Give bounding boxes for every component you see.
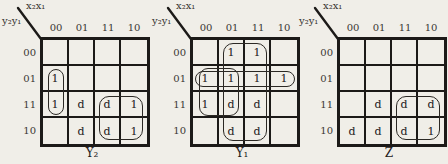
col-label: 00: [43, 22, 69, 33]
kmap-cell: d: [219, 118, 245, 144]
kmap-cell: 1: [271, 66, 297, 92]
row-label: 01: [160, 66, 186, 92]
col-label: 01: [366, 22, 392, 33]
kmap-cell: [340, 92, 366, 118]
kmap-cell: [392, 66, 418, 92]
kmap-y2: x₂x₁ y₂y₁ 00 01 11 10 00 01 11 10 1 1 d …: [0, 0, 150, 164]
kmap-y1: x₂x₁ y₂y₁ 00 01 11 10 00 01 11 10 1 1 1 …: [150, 0, 300, 164]
kmap-figure: x₂x₁ y₂y₁ 00 01 11 10 00 01 11 10 1 1 d …: [0, 0, 448, 164]
kmap-caption: Z: [334, 146, 444, 160]
kmap-cell: 1: [193, 66, 219, 92]
kmap-cell: [392, 40, 418, 66]
kmap-cell: d: [392, 92, 418, 118]
kmap-caption: Y₁: [187, 146, 297, 160]
kmap-cell: 1: [219, 40, 245, 66]
kmap-cell: [69, 40, 95, 66]
kmap-cell: d: [366, 118, 392, 144]
row-label: 01: [10, 66, 36, 92]
row-label: 00: [307, 40, 333, 66]
col-label: 11: [392, 22, 418, 33]
kmap-grid: 1 1 d d 1 d d 1: [40, 37, 150, 147]
row-label: 00: [160, 40, 186, 66]
row-label: 10: [160, 118, 186, 144]
kmap-cell: [366, 40, 392, 66]
kmap-grid: d d d d d d 1: [337, 37, 447, 147]
col-label: 11: [95, 22, 121, 33]
corner-top-label: x₂x₁: [323, 0, 342, 11]
kmap-cell: [271, 118, 297, 144]
kmap-cell: d: [245, 118, 271, 144]
kmap-cell: [95, 66, 121, 92]
kmap-cell: [95, 40, 121, 66]
kmap-cell: d: [69, 92, 95, 118]
kmap-cell: [418, 66, 444, 92]
kmap-cell: d: [95, 92, 121, 118]
kmap-cell: 1: [245, 66, 271, 92]
row-label: 10: [307, 118, 333, 144]
kmap-cell: d: [392, 118, 418, 144]
kmap-cell: 1: [121, 118, 147, 144]
row-label: 11: [160, 92, 186, 118]
kmap-cell: [366, 66, 392, 92]
col-label: 11: [245, 22, 271, 33]
kmap-cell: d: [245, 92, 271, 118]
kmap-cell: [340, 66, 366, 92]
corner-top-label: x₂x₁: [176, 0, 195, 11]
kmap-cell: [271, 92, 297, 118]
kmap-cell: 1: [121, 92, 147, 118]
kmap-cell: 1: [219, 66, 245, 92]
kmap-cell: [43, 40, 69, 66]
kmap-cell: d: [366, 92, 392, 118]
kmap-cell: 1: [418, 118, 444, 144]
kmap-cell: [418, 40, 444, 66]
kmap-caption: Y₂: [37, 146, 147, 160]
corner-side-label: y₂y₁: [299, 15, 318, 26]
kmap-cell: d: [340, 118, 366, 144]
kmap-cell: d: [69, 118, 95, 144]
row-label: 01: [307, 66, 333, 92]
row-label: 11: [307, 92, 333, 118]
kmap-cell: [43, 118, 69, 144]
col-label: 01: [69, 22, 95, 33]
kmap-cell: 1: [193, 92, 219, 118]
corner-top-label: x₂x₁: [26, 0, 45, 11]
kmap-grid: 1 1 1 1 1 1 1 d d d d: [190, 37, 300, 147]
corner-side-label: y₂y₁: [2, 15, 21, 26]
col-label: 00: [340, 22, 366, 33]
col-label: 10: [418, 22, 444, 33]
col-label: 00: [193, 22, 219, 33]
kmap-cell: [121, 40, 147, 66]
kmap-cell: 1: [43, 92, 69, 118]
kmap-cell: [193, 40, 219, 66]
kmap-cell: [69, 66, 95, 92]
row-label: 00: [10, 40, 36, 66]
kmap-cell: [271, 40, 297, 66]
kmap-cell: [121, 66, 147, 92]
corner-side-label: y₂y₁: [152, 15, 171, 26]
kmap-cell: [193, 118, 219, 144]
col-label: 10: [271, 22, 297, 33]
kmap-cell: d: [95, 118, 121, 144]
kmap-cell: d: [219, 92, 245, 118]
row-label: 10: [10, 118, 36, 144]
kmap-cell: [340, 40, 366, 66]
row-label: 11: [10, 92, 36, 118]
kmap-cell: 1: [43, 66, 69, 92]
kmap-cell: 1: [245, 40, 271, 66]
kmap-z: x₂x₁ y₂y₁ 00 01 11 10 00 01 11 10 d d d …: [297, 0, 447, 164]
col-label: 01: [219, 22, 245, 33]
col-label: 10: [121, 22, 147, 33]
kmap-cell: d: [418, 92, 444, 118]
